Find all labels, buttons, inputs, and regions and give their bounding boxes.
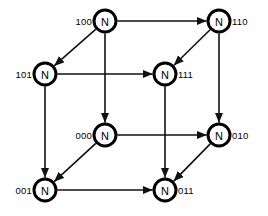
- node-101[interactable]: N101: [16, 63, 56, 85]
- node-glyph-011: N: [161, 185, 169, 197]
- node-address-110: 110: [232, 16, 248, 27]
- node-glyph-111: N: [161, 69, 169, 81]
- node-110[interactable]: N110: [208, 10, 248, 32]
- cube-diagram-svg: N100N110N101N111N000N010N001N011: [0, 0, 268, 216]
- node-111[interactable]: N111: [154, 63, 193, 85]
- edge-layer: [45, 21, 219, 190]
- node-address-000: 000: [76, 130, 92, 141]
- edge-110-111: [174, 30, 210, 65]
- node-glyph-101: N: [41, 69, 49, 81]
- node-100[interactable]: N100: [76, 10, 116, 32]
- node-glyph-100: N: [101, 16, 109, 28]
- edge-000-001: [54, 143, 96, 181]
- edge-100-101: [54, 29, 95, 65]
- node-glyph-110: N: [215, 16, 223, 28]
- node-address-010: 010: [232, 130, 248, 141]
- node-glyph-001: N: [41, 185, 49, 197]
- node-address-111: 111: [178, 69, 193, 80]
- node-address-001: 001: [16, 185, 32, 196]
- node-address-101: 101: [16, 69, 32, 80]
- cube-diagram-canvas: N100N110N101N111N000N010N001N011: [0, 0, 268, 216]
- node-glyph-000: N: [101, 130, 109, 142]
- node-layer: N100N110N101N111N000N010N001N011: [16, 10, 249, 201]
- node-000[interactable]: N000: [76, 124, 116, 146]
- edge-010-011: [174, 144, 210, 181]
- node-address-011: 011: [178, 185, 194, 196]
- node-001[interactable]: N001: [16, 179, 56, 201]
- node-010[interactable]: N010: [208, 124, 248, 146]
- node-glyph-010: N: [215, 130, 223, 142]
- node-011[interactable]: N011: [154, 179, 194, 201]
- node-address-100: 100: [76, 16, 92, 27]
